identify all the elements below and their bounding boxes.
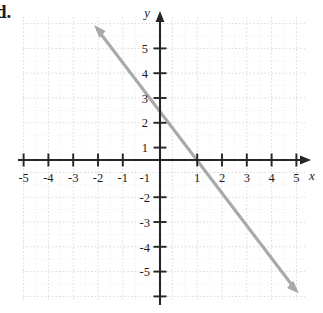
graph-figure: d. <box>0 0 323 313</box>
y-axis-arrow <box>156 11 165 22</box>
coordinate-plane: -5 -4 -3 -2 -1 1 2 3 4 5 5 4 3 2 1 -1 -2… <box>0 0 323 313</box>
axis-arrowheads <box>156 11 311 164</box>
y-tick-label: -1 <box>140 171 150 185</box>
y-tick-label: 4 <box>142 67 149 81</box>
x-tick-label: 3 <box>244 171 250 185</box>
y-tick-label: 1 <box>142 141 148 155</box>
x-tick-label: 4 <box>268 171 275 185</box>
y-tick-label: -5 <box>140 265 150 279</box>
x-tick-label: -3 <box>68 171 78 185</box>
x-tick-label: -5 <box>18 171 28 185</box>
y-tick-label: 3 <box>142 92 148 106</box>
y-tick-label: 5 <box>142 42 148 56</box>
x-tick-label: -1 <box>118 171 128 185</box>
y-tick-label: 2 <box>142 116 148 130</box>
x-tick-label: 1 <box>194 171 200 185</box>
x-tick-label: -4 <box>43 171 54 185</box>
grid-major <box>23 17 305 300</box>
y-axis-label: y <box>142 5 150 20</box>
x-axis-arrow <box>300 156 311 165</box>
x-tick-label: 5 <box>293 171 299 185</box>
x-tick-label: 2 <box>219 171 225 185</box>
y-tick-label: -2 <box>140 191 150 205</box>
grid-minor <box>23 17 305 300</box>
y-tick-label: -3 <box>140 216 150 230</box>
x-axis-label: x <box>308 168 315 183</box>
y-tick-label: -4 <box>140 241 151 255</box>
x-tick-label: -2 <box>93 171 103 185</box>
